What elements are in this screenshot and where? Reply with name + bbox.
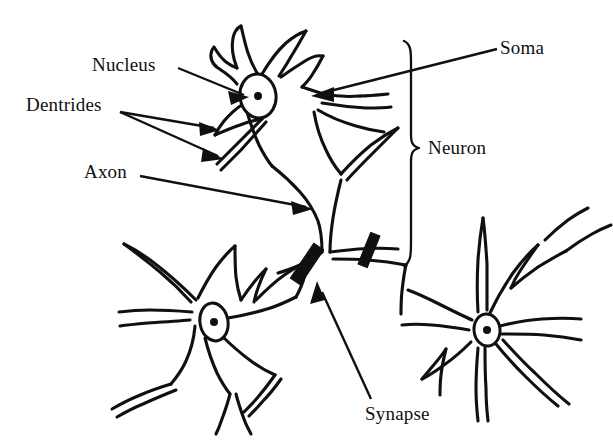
right-dendrite-left-upper-b: [401, 265, 406, 314]
right-dendrite-up-1b: [483, 218, 487, 310]
main-neuron-nucleolus: [254, 92, 262, 100]
neuron-brace-path: [404, 41, 419, 266]
lower-left-soma-right-lower: [222, 336, 275, 375]
right-neuron-nucleolus: [483, 326, 491, 334]
right-dendrite-up-1: [477, 218, 483, 312]
label-axon: Axon: [84, 162, 127, 181]
soma-leader-line: [322, 49, 497, 93]
right-soma-right: [500, 318, 581, 326]
lower-left-dendrite-up: [235, 246, 241, 300]
lower-left-soma-left-lower: [171, 326, 195, 384]
right-dendrite-left-upper: [408, 290, 472, 320]
main-neuron-dendrite-right-3: [318, 110, 384, 132]
main-neuron-axon-trunk-right: [330, 180, 341, 252]
lower-left-nucleolus: [210, 318, 218, 326]
neuron-brace: [404, 41, 419, 266]
label-synapse: Synapse: [365, 404, 430, 423]
main-neuron-dendrite-right-1: [360, 94, 388, 96]
soma-leader-arrowhead: [311, 87, 334, 102]
label-neuron: Neuron: [428, 138, 486, 157]
lower-left-dendrite-downright-b: [249, 379, 281, 416]
right-dendrite-bottom-b: [476, 348, 478, 421]
right-dendrite-upright-2: [545, 208, 588, 240]
right-soma-lower-right: [496, 344, 558, 406]
lower-left-dendrite-down: [216, 394, 230, 434]
leader-lines: [120, 49, 497, 399]
right-soma-left: [402, 324, 469, 330]
label-dentrides: Dentrides: [26, 95, 102, 114]
main-neuron-dendrite-right-2: [322, 103, 391, 108]
lower-left-soma-top: [198, 246, 235, 298]
label-soma: Soma: [500, 38, 544, 57]
main-neuron-dendrite-top-left: [232, 26, 241, 68]
lower-left-soma-right: [228, 297, 296, 318]
lower-left-soma-upper-right: [256, 264, 302, 300]
lower-left-dendrite-left-1: [119, 310, 192, 312]
label-nucleus: Nucleus: [92, 55, 156, 74]
right-soma-bottom: [485, 348, 488, 421]
lower-left-dendrite-upleft-b: [124, 244, 191, 302]
right-dendrite-upright-1: [511, 245, 538, 288]
right-dendrite-right-2: [502, 334, 581, 340]
main-neuron-soma-lower-right: [314, 112, 341, 174]
right-neuron: [401, 208, 611, 421]
synapse-bar-left: [290, 243, 323, 285]
synapse-leader-line: [322, 292, 371, 399]
axon-leader-line: [140, 176, 306, 207]
neuron-diagram: Nucleus Dentrides Axon Soma Neuron Synap…: [0, 0, 613, 446]
right-dendrite-upright-2b: [566, 225, 611, 251]
main-neuron-dendrite-top-left-b: [241, 26, 259, 76]
lower-left-dendrite-left-2: [120, 320, 190, 326]
lower-left-soma-bottom: [205, 338, 230, 394]
main-neuron-dendrite-lower-right-b: [347, 128, 398, 180]
lower-left-dendrite-down-b: [236, 394, 251, 434]
right-dendrite-lower-right-b: [503, 340, 569, 404]
